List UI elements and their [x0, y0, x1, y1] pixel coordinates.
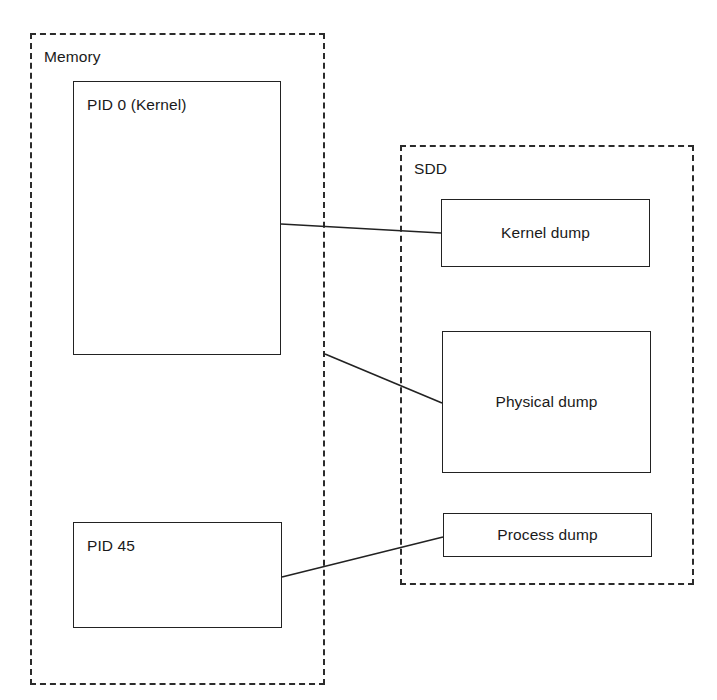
node-label-pid-45: PID 45: [87, 538, 135, 554]
node-label-pid-0-kernel: PID 0 (Kernel): [87, 97, 187, 113]
node-label-physical-dump: Physical dump: [495, 394, 597, 410]
node-label-process-dump: Process dump: [497, 527, 597, 543]
node-process-dump[interactable]: Process dump: [443, 513, 652, 557]
group-label-memory: Memory: [44, 49, 101, 65]
node-pid-45[interactable]: PID 45: [73, 522, 282, 628]
node-pid-0-kernel[interactable]: PID 0 (Kernel): [73, 81, 281, 355]
group-label-sdd: SDD: [414, 161, 447, 177]
node-kernel-dump[interactable]: Kernel dump: [441, 199, 650, 267]
node-physical-dump[interactable]: Physical dump: [442, 331, 651, 473]
diagram-canvas: Memory SDD PID 0 (Kernel) PID 45 Kernel …: [0, 0, 717, 700]
node-label-kernel-dump: Kernel dump: [501, 225, 590, 241]
